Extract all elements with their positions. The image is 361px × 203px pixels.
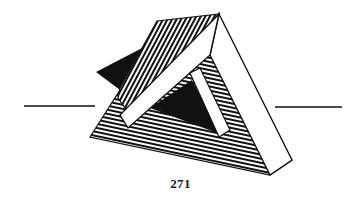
page-number: 271	[0, 176, 361, 192]
impossible-triangle-figure	[0, 0, 361, 203]
